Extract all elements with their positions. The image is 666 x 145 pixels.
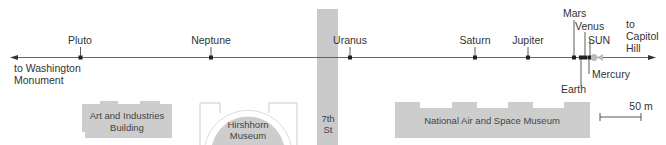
scale-label: 50 m: [629, 100, 653, 112]
label-earth: Earth: [561, 83, 586, 95]
art-industries-label-line2: Building: [110, 122, 144, 133]
art-industries-label-line1: Art and Industries: [90, 110, 165, 121]
sun-icon: [591, 54, 598, 61]
jupiter-marker: [526, 56, 530, 60]
to-washington-line1: to Washington: [14, 62, 81, 74]
arrow-right-icon: [648, 55, 656, 60]
to-washington-line2: Monument: [14, 74, 64, 86]
earth-marker: [579, 56, 583, 60]
label-pluto: Pluto: [68, 34, 92, 46]
to-capitol-line3: Hill: [626, 42, 641, 54]
label-venus: Venus: [575, 20, 604, 32]
mars-marker: [572, 56, 576, 60]
venus-marker: [583, 56, 587, 60]
hirshhorn-label-line2: Museum: [230, 130, 267, 141]
uranus-marker: [348, 56, 352, 60]
neptune-marker: [209, 56, 213, 60]
label-sun: SUN: [588, 34, 610, 46]
label-mars: Mars: [563, 7, 586, 19]
street-label-line2: St: [324, 124, 333, 135]
hirshhorn-label-line1: Hirshhorn: [227, 119, 268, 130]
mercury-marker: [588, 56, 592, 60]
street-label-line1: 7th: [321, 113, 334, 124]
label-jupiter: Jupiter: [512, 34, 544, 46]
to-capitol-line1: to: [626, 18, 635, 30]
pluto-marker: [79, 56, 83, 60]
mall-planet-walk-map: Pluto Neptune Uranus Saturn Jupiter Mars…: [0, 0, 666, 145]
to-capitol-line2: Capitol: [626, 30, 659, 42]
arrow-left-icon: [10, 55, 18, 60]
label-saturn: Saturn: [460, 34, 491, 46]
label-uranus: Uranus: [333, 34, 367, 46]
label-mercury: Mercury: [592, 68, 631, 80]
sun-pointer-icon: [597, 54, 603, 61]
scale-bar: [600, 113, 641, 121]
air-space-label: National Air and Space Museum: [424, 115, 560, 126]
saturn-marker: [473, 56, 477, 60]
label-neptune: Neptune: [191, 34, 231, 46]
